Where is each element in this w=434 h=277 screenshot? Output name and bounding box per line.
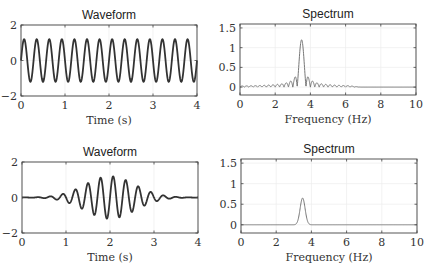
chart-title: Spectrum	[303, 142, 354, 156]
chart-title: Waveform	[83, 145, 137, 159]
y-tick-label: 0	[11, 192, 18, 205]
x-tick-label: 1	[63, 236, 70, 249]
figure: 01234−202WaveformTime (s)024681000.511.5…	[0, 0, 434, 277]
chart-title: Spectrum	[302, 7, 353, 21]
x-tick-label: 2	[273, 236, 280, 249]
x-tick-label: 0	[237, 98, 244, 111]
x-tick-label: 0	[238, 236, 245, 249]
x-tick-label: 4	[195, 236, 202, 249]
x-tick-label: 4	[308, 236, 315, 249]
y-tick-label: 1	[230, 178, 237, 191]
chart-3: 01234−202WaveformTime (s)	[2, 145, 202, 264]
y-tick-label: 0	[230, 219, 237, 232]
y-tick-label: 1.5	[220, 157, 238, 170]
x-tick-label: 4	[307, 98, 314, 111]
y-tick-label: 0	[10, 55, 17, 68]
x-tick-label: 10	[409, 98, 423, 111]
x-axis-label: Time (s)	[87, 251, 133, 264]
x-tick-label: 2	[272, 98, 279, 111]
chart-title: Waveform	[82, 8, 136, 22]
x-tick-label: 6	[342, 98, 349, 111]
x-tick-label: 1	[62, 99, 69, 112]
y-tick-label: 2	[11, 156, 18, 169]
y-tick-label: 1	[229, 42, 236, 55]
y-tick-label: −2	[2, 227, 18, 240]
y-tick-label: 2	[10, 19, 17, 32]
chart-2: 024681000.511.5SpectrumFrequency (Hz)	[219, 7, 424, 126]
x-tick-label: 10	[410, 236, 424, 249]
plot-area	[240, 24, 416, 95]
x-axis-label: Frequency (Hz)	[286, 251, 373, 264]
x-tick-label: 3	[151, 236, 158, 249]
x-axis-label: Time (s)	[86, 114, 132, 127]
x-tick-label: 0	[18, 99, 25, 112]
x-tick-label: 2	[106, 99, 113, 112]
x-tick-label: 4	[194, 99, 201, 112]
chart-4: 024681000.511.5SpectrumFrequency (Hz)	[220, 142, 425, 264]
y-tick-label: −2	[1, 90, 17, 103]
x-tick-label: 6	[343, 236, 350, 249]
x-tick-label: 0	[19, 236, 26, 249]
y-tick-label: 0.5	[220, 198, 238, 211]
x-tick-label: 8	[377, 98, 384, 111]
y-tick-label: 0.5	[219, 61, 237, 74]
chart-1: 01234−202WaveformTime (s)	[1, 8, 201, 127]
x-axis-label: Frequency (Hz)	[285, 113, 372, 126]
y-tick-label: 0	[229, 81, 236, 94]
x-tick-label: 2	[107, 236, 114, 249]
x-tick-label: 8	[378, 236, 385, 249]
plot-area	[241, 159, 417, 233]
y-tick-label: 1.5	[219, 22, 237, 35]
x-tick-label: 3	[150, 99, 157, 112]
